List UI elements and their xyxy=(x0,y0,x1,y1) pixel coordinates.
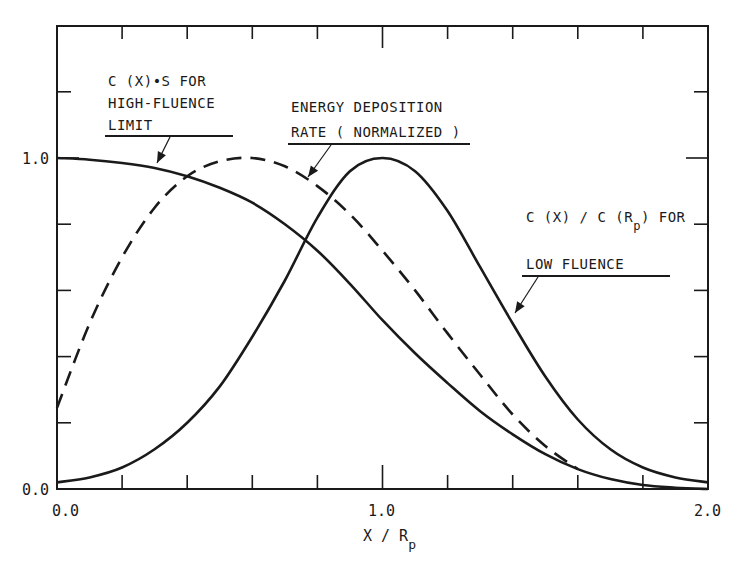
arrowhead-icon xyxy=(308,165,318,177)
low-fluence-label-b: ) FOR xyxy=(641,209,686,225)
annotation-low-fluence: C (X) / C (Rp) FOR LOW FLUENCE xyxy=(526,209,686,272)
x-axis-title-sub: p xyxy=(408,537,416,552)
x-tick-label-0: 0.0 xyxy=(52,502,79,520)
chart: 1.0 0.0 0.0 1.0 2.0 X / Rp C (X)•S FOR H… xyxy=(0,0,741,575)
curves xyxy=(57,158,708,489)
annotation-energy-deposition: ENERGY DEPOSITION RATE ( NORMALIZED ) xyxy=(291,99,461,140)
x-tick-label-1: 1.0 xyxy=(368,502,395,520)
x-axis-title-main: X / R xyxy=(363,527,409,545)
high-fluence-label-line3: LIMIT xyxy=(108,117,153,133)
low-fluence-label-sub: p xyxy=(633,219,641,233)
y-tick-label-1: 1.0 xyxy=(22,150,49,168)
low-fluence-label-line1: C (X) / C (Rp) FOR xyxy=(526,209,686,233)
high-fluence-label-line1: C (X)•S FOR xyxy=(108,73,206,89)
low-fluence-label-a: C (X) / C (R xyxy=(526,209,633,225)
energy-label-line2: RATE ( NORMALIZED ) xyxy=(291,124,461,140)
low-fluence-label-line2: LOW FLUENCE xyxy=(526,256,624,272)
curve-energy-deposition xyxy=(57,158,578,469)
annotation-high-fluence: C (X)•S FOR HIGH-FLUENCE LIMIT xyxy=(108,73,215,133)
arrowhead-icon xyxy=(515,301,525,313)
energy-label-line1: ENERGY DEPOSITION xyxy=(291,99,443,115)
y-tick-label-0: 0.0 xyxy=(22,481,49,499)
x-axis-title: X / Rp xyxy=(363,527,416,552)
high-fluence-label-line2: HIGH-FLUENCE xyxy=(108,95,215,111)
x-tick-label-2: 2.0 xyxy=(694,502,721,520)
